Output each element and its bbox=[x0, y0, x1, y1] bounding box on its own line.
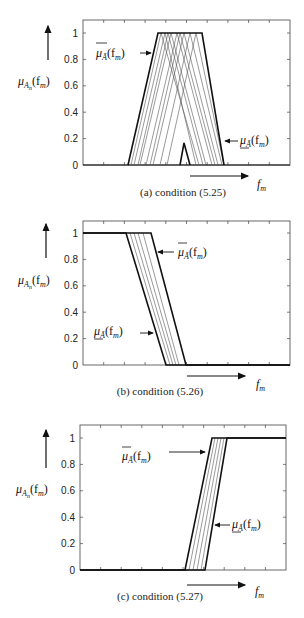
plot-frame bbox=[80, 425, 286, 570]
svg-text:0.8: 0.8 bbox=[64, 54, 78, 65]
svg-text:μÃ(fm): μÃ(fm) bbox=[177, 245, 207, 261]
svg-text:0: 0 bbox=[72, 360, 78, 371]
embedded-sets bbox=[130, 233, 179, 365]
svg-text:0.6: 0.6 bbox=[61, 485, 75, 496]
svg-text:0: 0 bbox=[69, 565, 75, 576]
svg-text:0.2: 0.2 bbox=[64, 333, 78, 344]
y-tick-labels: 1 0.8 0.6 0.4 0.2 0 bbox=[64, 228, 78, 371]
svg-text:fm: fm bbox=[257, 177, 266, 193]
caption-c: (c) condition (5.27) bbox=[117, 590, 203, 603]
svg-text:μÃ(fm): μÃ(fm) bbox=[239, 133, 269, 149]
svg-text:fm: fm bbox=[255, 584, 264, 600]
y-axis-label: μAn(fm) bbox=[17, 224, 50, 290]
svg-text:0.2: 0.2 bbox=[64, 133, 78, 144]
svg-text:μÃ(fm): μÃ(fm) bbox=[93, 324, 123, 340]
y-axis-label: μAn(fm) bbox=[17, 26, 50, 91]
svg-text:0.8: 0.8 bbox=[61, 459, 75, 470]
lower-membership-line bbox=[80, 438, 286, 570]
figure: 1 0.8 0.6 0.4 0.2 0 bbox=[0, 0, 304, 618]
caption-b: (b) condition (5.26) bbox=[117, 385, 204, 398]
caption-a: (a) condition (5.25) bbox=[140, 186, 226, 199]
svg-text:μAn(fm): μAn(fm) bbox=[15, 482, 48, 499]
lower-membership-line bbox=[180, 143, 190, 165]
y-tick-labels: 1 0.8 0.6 0.4 0.2 0 bbox=[61, 433, 75, 576]
upper-membership-annotation: μÃ(fm) bbox=[95, 38, 151, 63]
lower-membership-annotation: μÃ(fm) bbox=[215, 517, 261, 533]
svg-text:0.6: 0.6 bbox=[64, 280, 78, 291]
svg-text:0.4: 0.4 bbox=[64, 307, 78, 318]
svg-text:0.6: 0.6 bbox=[64, 80, 78, 91]
y-ticks bbox=[83, 233, 290, 339]
svg-text:μÃ(fm): μÃ(fm) bbox=[121, 449, 151, 465]
svg-text:0.4: 0.4 bbox=[61, 512, 75, 523]
svg-text:0.8: 0.8 bbox=[64, 254, 78, 265]
y-tick-labels: 1 0.8 0.6 0.4 0.2 0 bbox=[64, 28, 78, 171]
svg-text:fm: fm bbox=[256, 377, 265, 393]
chart-b: 1 0.8 0.6 0.4 0.2 0 μÃ(fm) μÃ(fm) bbox=[17, 221, 290, 398]
svg-text:1: 1 bbox=[72, 228, 78, 239]
upper-membership-line bbox=[80, 438, 286, 570]
upper-membership-annotation: μÃ(fm) bbox=[121, 447, 205, 465]
svg-text:μAn(fm): μAn(fm) bbox=[17, 74, 50, 91]
svg-text:0.4: 0.4 bbox=[64, 107, 78, 118]
svg-text:μÃ(fm): μÃ(fm) bbox=[95, 46, 125, 62]
upper-membership-annotation: μÃ(fm) bbox=[158, 243, 207, 261]
embedded-sets bbox=[189, 438, 224, 570]
chart-c: 1 0.8 0.6 0.4 0.2 0 μÃ(fm) μÃ(fm) bbox=[15, 425, 286, 603]
svg-text:μÃ(fm): μÃ(fm) bbox=[231, 517, 261, 533]
chart-a: 1 0.8 0.6 0.4 0.2 0 bbox=[17, 20, 290, 199]
y-axis-label: μAn(fm) bbox=[15, 430, 48, 499]
svg-text:μAn(fm): μAn(fm) bbox=[17, 273, 50, 290]
lower-membership-annotation: μÃ(fm) bbox=[225, 133, 269, 149]
svg-text:0.2: 0.2 bbox=[61, 538, 75, 549]
svg-text:0: 0 bbox=[72, 160, 78, 171]
lower-membership-annotation: μÃ(fm) bbox=[93, 324, 153, 340]
svg-text:1: 1 bbox=[72, 28, 78, 39]
svg-text:1: 1 bbox=[69, 433, 75, 444]
